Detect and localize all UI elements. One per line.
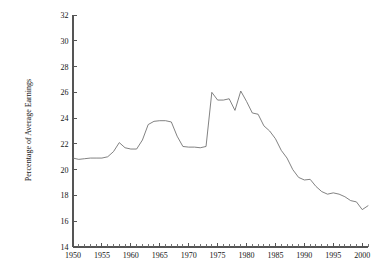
- y-axis-title: Percentage of Average Earnings: [24, 79, 33, 181]
- x-axis: 1950195519601965197019751980198519901995…: [65, 243, 370, 261]
- y-axis-tick-label: 18: [61, 191, 69, 200]
- y-axis-tick-label: 22: [61, 140, 69, 149]
- y-axis: 14161820222426283032: [61, 11, 77, 252]
- y-axis-tick-label: 28: [61, 63, 69, 72]
- x-axis-tick-label: 1970: [181, 251, 197, 260]
- y-axis-tick-label: 16: [61, 217, 69, 226]
- data-line-percentage-of-average-earnings: [73, 91, 368, 210]
- x-axis-tick-label: 1975: [210, 251, 226, 260]
- y-axis-tick-label: 24: [61, 114, 69, 123]
- x-axis-tick-label: 2000: [354, 251, 370, 260]
- x-axis-tick-label: 1990: [296, 251, 312, 260]
- x-axis-tick-label: 1965: [152, 251, 168, 260]
- y-axis-title-group: Percentage of Average Earnings: [24, 79, 33, 181]
- x-axis-tick-label: 1955: [94, 251, 110, 260]
- chart-container: Percentage of Average Earnings 141618202…: [0, 0, 387, 274]
- y-axis-tick-label: 20: [61, 166, 69, 175]
- x-axis-tick-label: 1980: [239, 251, 255, 260]
- data-series-group: [73, 91, 368, 210]
- x-axis-tick-label: 1960: [123, 251, 139, 260]
- y-axis-tick-label: 30: [61, 37, 69, 46]
- y-axis-tick-label: 32: [61, 11, 69, 20]
- x-axis-tick-label: 1985: [267, 251, 283, 260]
- x-axis-tick-label: 1995: [325, 251, 341, 260]
- x-axis-tick-label: 1950: [65, 251, 81, 260]
- y-axis-tick-label: 26: [61, 88, 69, 97]
- line-chart: Percentage of Average Earnings 141618202…: [0, 0, 387, 274]
